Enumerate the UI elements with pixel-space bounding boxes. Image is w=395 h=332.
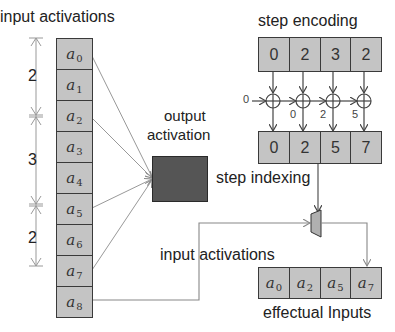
effectual-input-cell: a2 xyxy=(289,267,321,299)
input-cell: a6 xyxy=(56,224,93,256)
step-index-cell: 7 xyxy=(350,131,382,164)
effectual-inputs-row: a0 a2 a5 a7 xyxy=(258,267,382,299)
step-index-cell: 2 xyxy=(289,131,321,164)
step-encoding-cell: 2 xyxy=(350,37,382,72)
convolution-lines xyxy=(92,56,152,270)
output-activation-label-line1: output xyxy=(164,108,206,123)
effectual-inputs-label: effectual Inputs xyxy=(263,305,371,321)
encoding-to-adder-arrows xyxy=(273,71,364,93)
step-encoding-cell: 0 xyxy=(258,37,290,72)
input-cell: a8 xyxy=(56,286,93,318)
step-encoding-cell: 3 xyxy=(320,37,351,72)
input-cell: a2 xyxy=(56,100,93,132)
step-index-cell: 5 xyxy=(320,131,351,164)
input-cell: a7 xyxy=(56,255,93,287)
input-cell: a4 xyxy=(56,162,93,194)
input-cell: a1 xyxy=(56,69,93,101)
input-activations-label: input activations xyxy=(160,247,275,263)
step-index-cell: 0 xyxy=(258,131,290,164)
step-indexing-label: step indexing xyxy=(216,170,310,186)
step-encoding-cell: 2 xyxy=(289,37,321,72)
effectual-input-cell: a0 xyxy=(258,267,290,299)
step-dimension-2: 3 xyxy=(28,151,37,169)
input-activations-title: input activations xyxy=(0,9,115,25)
adder-carry-label: 0 xyxy=(290,108,296,120)
adder-carry-label: 2 xyxy=(320,108,326,120)
step-encoding-title: step encoding xyxy=(258,13,358,29)
input-cell: a5 xyxy=(56,193,93,225)
mux-to-output-line xyxy=(321,223,367,266)
effectual-input-cell: a5 xyxy=(320,267,351,299)
multiplexer xyxy=(311,210,321,237)
input-activation-column: a0 a1 a2 a3 a4 a5 a6 a7 a8 xyxy=(56,38,93,318)
step-indexing-row: 0 2 5 7 xyxy=(258,131,382,164)
step-dimension-3: 2 xyxy=(28,229,37,247)
adder-carry-label: 5 xyxy=(352,108,358,120)
output-activation-box xyxy=(152,156,208,202)
input-cell: a0 xyxy=(56,38,93,70)
step-dimension-1: 2 xyxy=(28,67,37,85)
step-encoding-row: 0 2 3 2 xyxy=(258,37,382,72)
effectual-input-cell: a7 xyxy=(350,267,382,299)
adder-initial-input: 0 xyxy=(243,93,249,105)
output-activation-label-line2: activation xyxy=(147,127,210,142)
input-cell: a3 xyxy=(56,131,93,163)
